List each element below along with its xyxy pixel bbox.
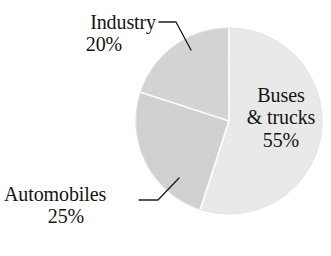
pie-label-buses-line1: Buses	[238, 84, 324, 106]
pie-label-industry: Industry 20%	[52, 12, 156, 55]
pie-label-automobiles: Automobiles 25%	[4, 184, 140, 227]
pie-label-automobiles-name: Automobiles	[4, 183, 106, 205]
pie-label-automobiles-value: 25%	[4, 206, 128, 228]
pie-label-buses-value: 55%	[263, 129, 299, 151]
pie-label-industry-name: Industry	[90, 11, 156, 33]
pie-chart: Industry 20% Automobiles 25% Buses & tru…	[0, 0, 331, 256]
pie-label-buses-and-trucks: Buses & trucks 55%	[238, 84, 324, 151]
pie-label-industry-value: 20%	[52, 34, 156, 56]
pie-label-buses-line2: & trucks	[238, 106, 324, 128]
